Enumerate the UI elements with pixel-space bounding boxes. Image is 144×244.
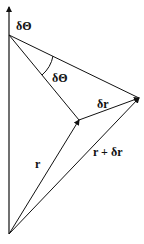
axis-angle-label: δΘ	[16, 19, 32, 33]
apex-line-to-r-tip	[9, 35, 79, 120]
vector-dr	[79, 98, 139, 120]
vector-r	[9, 120, 79, 234]
delta-r-label: δr	[97, 97, 109, 111]
r-plus-delta-r-label: r + δr	[93, 145, 123, 159]
apex-line-to-r-dr-tip	[9, 35, 139, 98]
angle-arc-label: δΘ	[52, 71, 68, 85]
r-label: r	[35, 157, 41, 171]
vector-diagram: δΘ δΘ δr r r + δr	[0, 0, 144, 244]
vector-r-plus-dr	[9, 98, 139, 234]
